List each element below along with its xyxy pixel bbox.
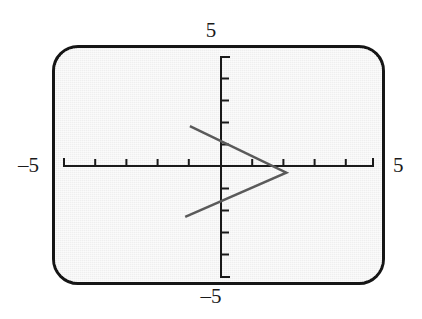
y-axis-max-label: 5 xyxy=(0,20,422,41)
x-axis-max-label: 5 xyxy=(393,155,404,176)
y-axis-min-label: –5 xyxy=(0,286,422,307)
calculator-screen[interactable] xyxy=(52,45,385,285)
x-axis-min-label: –5 xyxy=(18,155,39,176)
graphing-calculator-figure: 5 –5 –5 5 xyxy=(0,0,422,319)
coordinate-plot xyxy=(55,48,382,282)
plotted-curve xyxy=(185,126,286,217)
